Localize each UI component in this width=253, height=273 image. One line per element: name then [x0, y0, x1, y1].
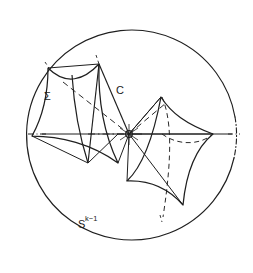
figure-container: Σ C S k−1: [0, 0, 253, 273]
math-figure-svg: Σ C S k−1: [0, 0, 253, 273]
label-sphere-exponent: k−1: [85, 214, 97, 223]
left-astroid-chord-b: [32, 136, 88, 163]
label-sphere-group: S k−1: [78, 214, 97, 230]
cone-line-left: [88, 64, 99, 163]
cone-line-lower: [118, 134, 129, 163]
label-cone-c: C: [116, 84, 124, 96]
label-sigma: Σ: [44, 90, 51, 102]
cone-lines-group: [48, 64, 129, 163]
right-astroid-edge-top: [129, 97, 161, 134]
outer-circle-group: [27, 30, 237, 240]
dashed-tick-bottom: [160, 215, 162, 222]
dashed-diagonal-line-right: [129, 103, 166, 134]
left-astroid-chord-a: [48, 64, 99, 68]
dashed-tick-top-left: [96, 55, 99, 64]
sphere-circle-dashdot: [234, 117, 237, 158]
left-astroid-fold-curve: [72, 75, 88, 163]
dashed-arc-right: [162, 97, 170, 217]
dashed-tick-top-left2: [45, 62, 49, 68]
cone-line-right: [99, 64, 129, 134]
